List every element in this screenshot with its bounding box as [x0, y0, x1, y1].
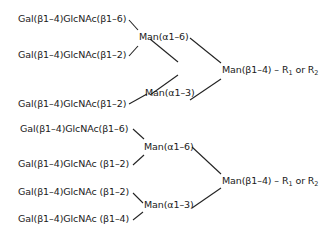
mannose-upper-label: Man(α1–6): [139, 31, 189, 43]
bond-line: [129, 20, 138, 30]
bond-line: [133, 212, 143, 220]
core-label: Man(β1–4) – R1 or R2: [222, 64, 318, 76]
branch-label: Gal(β1–4)GlcNAc(β1–2): [18, 49, 126, 61]
bond-line: [192, 147, 221, 174]
bond-line: [192, 188, 221, 208]
branch-label: Gal(β1–4)GlcNAc(β1–6): [20, 123, 128, 135]
mannose-lower-label: Man(α1–3): [145, 87, 195, 99]
subscript-2: 2: [314, 180, 318, 188]
branch-label: Gal(β1–4)GlcNAc (β1–4): [18, 213, 129, 225]
bond-line: [129, 46, 138, 56]
core-label: Man(β1–4) – R1 or R2: [222, 175, 318, 187]
bond-line: [133, 155, 144, 165]
bond-line: [190, 38, 221, 63]
bond-line: [133, 193, 143, 203]
core-or: or R: [293, 64, 315, 75]
subscript-2: 2: [314, 69, 318, 77]
branch-label: Gal(β1–4)GlcNAc (β1–2): [18, 158, 129, 170]
mannose-upper-label: Man(α1–6): [144, 141, 194, 153]
bond-line: [133, 129, 144, 139]
branch-label: Gal(β1–4)GlcNAc(β1–2): [18, 98, 126, 110]
core-prefix: Man(β1–4) – R: [222, 64, 288, 75]
branch-label: Gal(β1–4)GlcNAc(β1–6): [18, 13, 126, 25]
core-prefix: Man(β1–4) – R: [222, 175, 288, 186]
core-or: or R: [293, 175, 315, 186]
branch-label: Gal(β1–4)GlcNAc (β1–2): [18, 186, 129, 198]
mannose-lower-label: Man(α1–3): [144, 199, 194, 211]
